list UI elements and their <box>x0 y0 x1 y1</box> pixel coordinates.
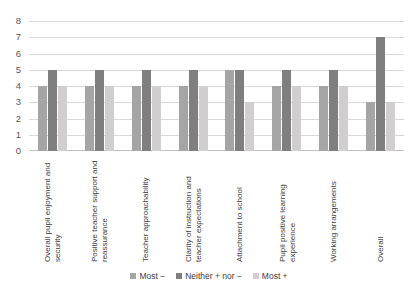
bar <box>85 86 94 151</box>
bar <box>58 86 67 151</box>
x-axis-tick-label: Overall pupil enjoyment and security <box>43 154 62 262</box>
y-axis-tick-label: 7 <box>16 33 21 43</box>
x-axis-tick-cell: Attachment to school <box>217 152 264 264</box>
bar <box>376 37 385 151</box>
x-axis-tick-label: Working arrangements <box>329 154 339 262</box>
bar <box>225 70 234 151</box>
bar-groups <box>29 21 404 151</box>
bar <box>292 86 301 151</box>
plot-area <box>29 21 404 151</box>
bar <box>272 86 281 151</box>
bar <box>386 102 395 151</box>
legend-label: Most + <box>262 272 288 281</box>
bar <box>48 70 57 151</box>
x-axis-tick-label: Pupil positive learning experience <box>277 154 296 262</box>
legend-item[interactable]: Most − <box>130 272 165 281</box>
x-axis-tick-label: Attachment to school <box>235 154 245 262</box>
legend-swatch-icon <box>176 273 182 279</box>
x-axis-tick-cell: Teacher approachability <box>123 152 170 264</box>
bar-group <box>170 21 217 151</box>
y-axis-tick-label: 3 <box>16 98 21 108</box>
x-axis-tick-cell: Positive teacher support and reassurance <box>76 152 123 264</box>
y-axis-tick-label: 8 <box>16 16 21 26</box>
x-axis-tick-cell: Overall <box>357 152 404 264</box>
bar-group <box>357 21 404 151</box>
bar <box>329 70 338 151</box>
bar <box>105 86 114 151</box>
x-axis-tick-label: Positive teacher support and reassurance <box>90 154 109 262</box>
bar-group <box>29 21 76 151</box>
bar <box>95 70 104 151</box>
bar <box>38 86 47 151</box>
x-axis-tick-label: Clarity of instruction and teacher expec… <box>184 154 203 262</box>
bar <box>179 86 188 151</box>
y-axis-tick-label: 2 <box>16 114 21 124</box>
bar-group <box>310 21 357 151</box>
y-axis-tick-label: 1 <box>16 130 21 140</box>
y-axis: 876543210 <box>0 21 26 151</box>
bar <box>366 102 375 151</box>
legend-label: Neither + nor − <box>185 272 242 281</box>
bar <box>199 86 208 151</box>
legend-item[interactable]: Most + <box>253 272 288 281</box>
bar <box>152 86 161 151</box>
x-axis-tick-cell: Overall pupil enjoyment and security <box>29 152 76 264</box>
bar-group <box>76 21 123 151</box>
x-axis-tick-label: Overall <box>376 154 386 262</box>
bar <box>319 86 328 151</box>
x-axis-tick-label: Teacher approachability <box>141 154 151 262</box>
bar <box>142 70 151 151</box>
x-axis-category-labels: Overall pupil enjoyment and securityPosi… <box>29 152 404 264</box>
x-axis-tick-cell: Working arrangements <box>310 152 357 264</box>
bar <box>189 70 198 151</box>
bar <box>282 70 291 151</box>
bar-group <box>263 21 310 151</box>
legend-label: Most − <box>139 272 165 281</box>
y-axis-tick-label: 6 <box>16 49 21 59</box>
x-axis-tick-cell: Pupil positive learning experience <box>263 152 310 264</box>
chart-legend: Most −Neither + nor −Most + <box>0 272 418 281</box>
legend-item[interactable]: Neither + nor − <box>176 272 242 281</box>
y-axis-tick-label: 5 <box>16 65 21 75</box>
bar-chart: 876543210 Overall pupil enjoyment and se… <box>0 0 418 292</box>
bar <box>132 86 141 151</box>
x-axis-tick-cell: Clarity of instruction and teacher expec… <box>170 152 217 264</box>
legend-swatch-icon <box>253 273 259 279</box>
legend-swatch-icon <box>130 273 136 279</box>
bar-group <box>123 21 170 151</box>
y-axis-tick-label: 4 <box>16 81 21 91</box>
bar-group <box>217 21 264 151</box>
bar <box>245 102 254 151</box>
bar <box>235 70 244 151</box>
bar <box>339 86 348 151</box>
y-axis-tick-label: 0 <box>16 146 21 156</box>
